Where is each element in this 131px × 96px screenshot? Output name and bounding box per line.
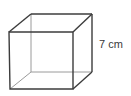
edge-top-left-connector: [9, 14, 31, 32]
edge-bottom-left-connector: [10, 72, 31, 89]
edge-bottom-right-connector: [73, 72, 92, 89]
edge-top-right-connector: [73, 14, 92, 32]
cube-visible-edges: [9, 14, 92, 89]
dimension-label: 7 cm: [99, 38, 123, 50]
cube-front-face: [9, 32, 73, 89]
